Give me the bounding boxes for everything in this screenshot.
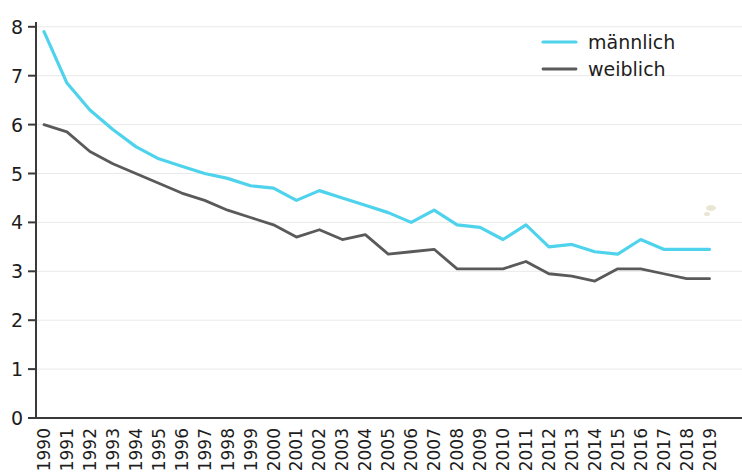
- x-axis-tick-label: 1992: [80, 428, 100, 471]
- legend-label-männlich: männlich: [588, 31, 675, 53]
- y-axis-tick-label: 2: [11, 309, 23, 331]
- y-axis-tick-label: 1: [11, 358, 23, 380]
- x-axis-tick-label: 2010: [493, 428, 513, 471]
- chart-svg: 012345678 199019911992199319941995199619…: [0, 0, 742, 473]
- scan-artifacts: [704, 205, 716, 216]
- x-axis-tick-label: 2002: [309, 428, 329, 471]
- y-axis-tick-label: 3: [11, 260, 23, 282]
- x-axis-tick-label: 2008: [447, 428, 467, 471]
- x-axis-tick-label: 1996: [172, 428, 192, 471]
- x-axis-tick-label: 2019: [700, 428, 720, 471]
- y-axis-ticks: [28, 27, 36, 418]
- y-axis-tick-label: 8: [11, 16, 23, 38]
- chart-legend: männlichweiblich: [543, 31, 675, 80]
- x-axis-tick-label: 1997: [195, 428, 215, 471]
- x-axis-tick-label: 2015: [608, 428, 628, 471]
- x-axis-tick-label: 2018: [677, 428, 697, 471]
- x-axis-tick-label: 1993: [103, 428, 123, 471]
- y-axis-tick-label: 6: [11, 114, 23, 136]
- x-axis-tick-label: 2014: [585, 428, 605, 471]
- x-axis-tick-label: 2006: [401, 428, 421, 471]
- x-axis-tick-label: 1998: [218, 428, 238, 471]
- x-axis-tick-label: 2004: [355, 428, 375, 471]
- legend-label-weiblich: weiblich: [588, 58, 666, 80]
- x-axis-tick-label: 2009: [470, 428, 490, 471]
- y-axis-tick-label: 4: [11, 211, 23, 233]
- x-axis-tick-label: 1991: [57, 428, 77, 471]
- x-axis-labels: 1990199119921993199419951996199719981999…: [34, 428, 720, 471]
- x-axis-tick-label: 2005: [378, 428, 398, 471]
- x-axis-tick-label: 2000: [264, 428, 284, 471]
- x-axis-tick-label: 2007: [424, 428, 444, 471]
- x-axis-tick-label: 1994: [126, 428, 146, 471]
- x-axis-tick-label: 2012: [539, 428, 559, 471]
- y-axis-labels: 012345678: [11, 16, 23, 429]
- x-axis-tick-label: 2016: [631, 428, 651, 471]
- x-axis-tick-label: 1990: [34, 428, 54, 471]
- y-axis-tick-label: 0: [11, 407, 23, 429]
- series-line-weiblich: [44, 125, 710, 281]
- x-axis-tick-label: 2013: [562, 428, 582, 471]
- x-axis-tick-label: 2011: [516, 428, 536, 471]
- x-axis-tick-label: 1995: [149, 428, 169, 471]
- y-axis-tick-label: 7: [11, 65, 23, 87]
- x-axis-tick-label: 2001: [286, 428, 306, 471]
- paper-smudge: [706, 205, 716, 211]
- line-chart: 012345678 199019911992199319941995199619…: [0, 0, 742, 473]
- paper-smudge: [704, 212, 710, 216]
- x-axis-tick-label: 2003: [332, 428, 352, 471]
- y-axis-tick-label: 5: [11, 163, 23, 185]
- x-axis-tick-label: 2017: [654, 428, 674, 471]
- x-axis-tick-label: 1999: [241, 428, 261, 471]
